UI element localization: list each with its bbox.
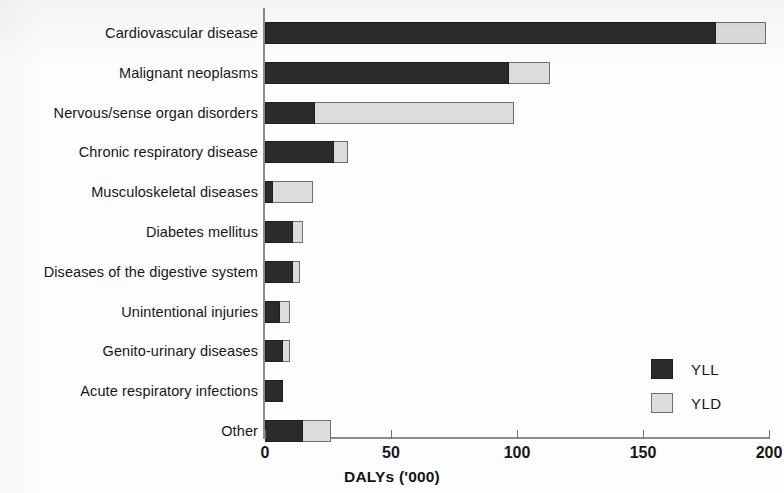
- stacked-bar: [265, 340, 290, 362]
- bar-segment-yll: [265, 380, 283, 402]
- bar-segment-yll: [265, 181, 273, 203]
- bar-row: Diabetes mellitus: [0, 212, 784, 252]
- category-label: Other: [221, 423, 258, 439]
- stacked-bar: [265, 261, 300, 283]
- x-tick-label: 50: [382, 444, 400, 462]
- stacked-bar: [265, 181, 313, 203]
- bar-segment-yll: [265, 221, 293, 243]
- x-tick-mark: [643, 430, 644, 439]
- stacked-bar: [265, 380, 283, 402]
- stacked-bar: [265, 62, 550, 84]
- legend: YLL YLD: [651, 352, 721, 420]
- bar-segment-yld: [303, 420, 331, 442]
- x-tick-mark: [769, 430, 770, 439]
- stacked-bar: [265, 301, 290, 323]
- stacked-bar: [265, 22, 766, 44]
- bar-row: Diseases of the digestive system: [0, 252, 784, 292]
- bar-segment-yll: [265, 261, 293, 283]
- bar-segment-yld: [334, 141, 348, 163]
- bar-segment-yld: [509, 62, 549, 84]
- x-axis-title: DALYs ('000): [0, 468, 784, 486]
- stacked-bar: [265, 102, 514, 124]
- dalys-stacked-bar-chart: Cardiovascular diseaseMalignant neoplasm…: [0, 0, 784, 493]
- bar-row: Nervous/sense organ disorders: [0, 93, 784, 133]
- category-label: Acute respiratory infections: [80, 383, 258, 399]
- x-tick-mark: [517, 430, 518, 439]
- category-label: Malignant neoplasms: [119, 65, 258, 81]
- bar-segment-yll: [265, 141, 334, 163]
- category-label: Nervous/sense organ disorders: [54, 105, 258, 121]
- bar-segment-yll: [265, 420, 303, 442]
- category-label: Diabetes mellitus: [146, 224, 258, 240]
- bar-segment-yll: [265, 102, 315, 124]
- bar-segment-yld: [283, 340, 291, 362]
- bar-row: Musculoskeletal diseases: [0, 172, 784, 212]
- bar-segment-yld: [280, 301, 290, 323]
- category-label: Musculoskeletal diseases: [91, 184, 258, 200]
- category-label: Genito-urinary diseases: [103, 343, 258, 359]
- legend-label-yll: YLL: [691, 361, 719, 378]
- legend-item-yld: YLD: [651, 386, 721, 420]
- bar-segment-yld: [716, 22, 766, 44]
- legend-swatch-yld-icon: [651, 393, 673, 413]
- legend-item-yll: YLL: [651, 352, 721, 386]
- category-label: Cardiovascular disease: [105, 25, 258, 41]
- bar-segment-yll: [265, 340, 283, 362]
- bar-segment-yll: [265, 22, 716, 44]
- x-tick-label: 100: [504, 444, 531, 462]
- x-tick-label: 150: [630, 444, 657, 462]
- bar-segment-yld: [293, 221, 303, 243]
- bar-row: Malignant neoplasms: [0, 53, 784, 93]
- x-tick-label: 200: [756, 444, 783, 462]
- bar-row: Cardiovascular disease: [0, 13, 784, 53]
- legend-label-yld: YLD: [691, 395, 721, 412]
- x-tick-mark: [265, 430, 266, 439]
- bar-row: Unintentional injuries: [0, 292, 784, 332]
- bar-segment-yll: [265, 301, 280, 323]
- category-label: Unintentional injuries: [121, 304, 258, 320]
- bar-row: Chronic respiratory disease: [0, 132, 784, 172]
- category-label: Diseases of the digestive system: [44, 264, 258, 280]
- stacked-bar: [265, 141, 348, 163]
- x-tick-mark: [391, 430, 392, 439]
- bar-segment-yll: [265, 62, 509, 84]
- bar-segment-yld: [293, 261, 301, 283]
- legend-swatch-yll-icon: [651, 359, 673, 379]
- bar-segment-yld: [315, 102, 514, 124]
- stacked-bar: [265, 221, 303, 243]
- category-label: Chronic respiratory disease: [79, 144, 258, 160]
- x-tick-label: 0: [261, 444, 270, 462]
- stacked-bar: [265, 420, 331, 442]
- bar-segment-yld: [273, 181, 313, 203]
- plot-area: Cardiovascular diseaseMalignant neoplasm…: [0, 0, 784, 493]
